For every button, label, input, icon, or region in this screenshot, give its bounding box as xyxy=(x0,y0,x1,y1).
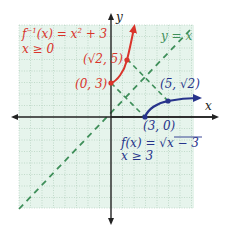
x-axis-label: x xyxy=(205,99,212,113)
point-label-5-sqrt2: (5, √2) xyxy=(160,77,200,91)
point-5-sqrt2 xyxy=(165,98,170,103)
point-label-sqrt2-5: (√2, 5) xyxy=(83,52,123,66)
svg-text:f(x) = √x − 3: f(x) = √x − 3 xyxy=(120,136,199,150)
y-axis-label: y xyxy=(115,10,123,24)
point-sqrt2-5 xyxy=(124,57,129,62)
point-label-3-0: (3, 0) xyxy=(143,119,176,133)
function-domain-label: x ≥ 3 xyxy=(121,149,153,163)
point-label-0-3: (0, 3) xyxy=(75,77,108,91)
function-inverse-graph: x y f−1(x) = x2 + 3 x ≥ 0 (0, 3) (√2, 5)… xyxy=(0,0,225,229)
inverse-domain-label: x ≥ 0 xyxy=(22,42,54,56)
point-0-3 xyxy=(108,80,113,85)
identity-line-label: y = x xyxy=(160,29,192,43)
